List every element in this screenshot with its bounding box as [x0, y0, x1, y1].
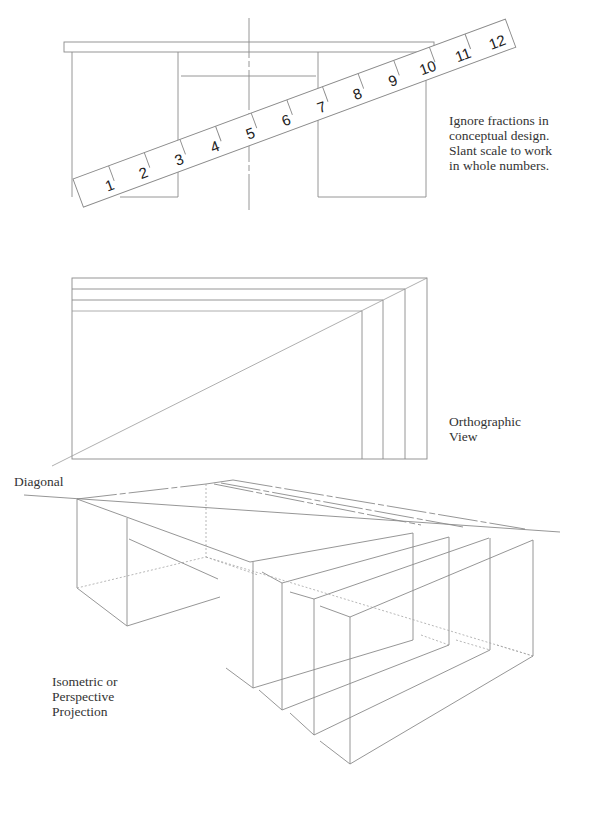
- orthographic-view: [52, 278, 427, 466]
- projection-caption: Isometric or Perspective Projection: [52, 674, 118, 719]
- diagonal-label: Diagonal: [14, 474, 64, 489]
- caption-line: Slant scale to work: [449, 143, 552, 158]
- caption-line: Perspective: [52, 689, 118, 704]
- caption-line: Diagonal: [14, 474, 64, 489]
- caption-line: View: [449, 429, 521, 444]
- caption-line: Isometric or: [52, 674, 118, 689]
- caption-line: Projection: [52, 704, 118, 719]
- scale-caption: Ignore fractions in conceptual design. S…: [449, 113, 552, 173]
- orthographic-caption: Orthographic View: [449, 414, 521, 444]
- caption-line: Ignore fractions in: [449, 113, 552, 128]
- caption-line: in whole numbers.: [449, 158, 552, 173]
- caption-line: conceptual design.: [449, 128, 552, 143]
- projection-view: [24, 480, 560, 764]
- caption-line: Orthographic: [449, 414, 521, 429]
